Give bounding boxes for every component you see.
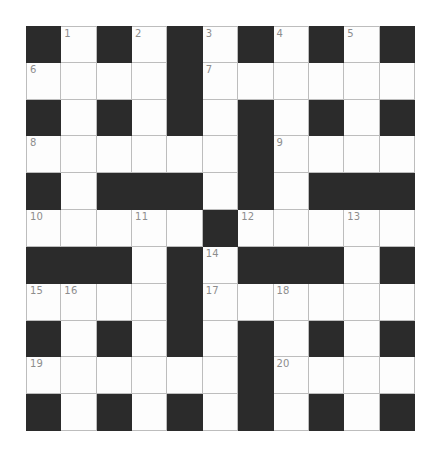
grid-cell-white[interactable] — [203, 357, 238, 394]
grid-cell-white[interactable] — [274, 394, 309, 431]
grid-cell-white[interactable] — [132, 357, 167, 394]
grid-cell-white[interactable] — [132, 394, 167, 431]
grid-cell-black — [97, 26, 132, 63]
grid-cell-white[interactable] — [203, 100, 238, 137]
grid-cell-white[interactable] — [344, 247, 379, 284]
grid-cell-black — [238, 100, 273, 137]
grid-cell-white[interactable] — [309, 357, 344, 394]
grid-cell-white[interactable] — [203, 321, 238, 358]
grid-cell-black — [274, 247, 309, 284]
grid-cell-white[interactable]: 2 — [132, 26, 167, 63]
grid-cell-white[interactable] — [344, 63, 379, 100]
grid-cell-white[interactable] — [61, 321, 96, 358]
grid-cell-white[interactable] — [97, 357, 132, 394]
grid-cell-white[interactable] — [167, 357, 202, 394]
cell-number: 3 — [206, 28, 213, 40]
grid-cell-white[interactable]: 4 — [274, 26, 309, 63]
grid-cell-white[interactable] — [132, 284, 167, 321]
grid-cell-white[interactable] — [132, 136, 167, 173]
grid-cell-white[interactable] — [97, 136, 132, 173]
grid-cell-white[interactable] — [380, 136, 415, 173]
grid-cell-white[interactable] — [309, 63, 344, 100]
grid-cell-black — [167, 63, 202, 100]
grid-cell-white[interactable] — [61, 100, 96, 137]
grid-cell-white[interactable]: 20 — [274, 357, 309, 394]
grid-cell-black — [344, 173, 379, 210]
grid-cell-white[interactable] — [203, 394, 238, 431]
grid-cell-white[interactable] — [167, 210, 202, 247]
grid-cell-white[interactable]: 13 — [344, 210, 379, 247]
grid-cell-white[interactable] — [203, 173, 238, 210]
grid-cell-white[interactable]: 15 — [26, 284, 61, 321]
grid-cell-black — [97, 394, 132, 431]
grid-cell-white[interactable] — [309, 136, 344, 173]
grid-cell-white[interactable]: 12 — [238, 210, 273, 247]
cell-number: 2 — [135, 28, 142, 40]
grid-cell-black — [380, 26, 415, 63]
grid-cell-black — [309, 173, 344, 210]
grid-cell-black — [97, 100, 132, 137]
grid-cell-black — [238, 247, 273, 284]
grid-cell-white[interactable] — [97, 210, 132, 247]
grid-cell-white[interactable] — [132, 100, 167, 137]
grid-cell-white[interactable] — [274, 321, 309, 358]
grid-cell-white[interactable] — [61, 173, 96, 210]
grid-cell-white[interactable]: 18 — [274, 284, 309, 321]
grid-cell-white[interactable] — [380, 284, 415, 321]
grid-cell-white[interactable]: 8 — [26, 136, 61, 173]
grid-cell-white[interactable] — [274, 100, 309, 137]
grid-cell-white[interactable] — [274, 63, 309, 100]
grid-cell-black — [26, 173, 61, 210]
grid-cell-white[interactable] — [344, 100, 379, 137]
grid-cell-white[interactable]: 6 — [26, 63, 61, 100]
grid-cell-white[interactable]: 16 — [61, 284, 96, 321]
grid-cell-white[interactable] — [344, 394, 379, 431]
grid-cell-white[interactable] — [203, 136, 238, 173]
grid-cell-white[interactable] — [61, 136, 96, 173]
cell-number: 9 — [277, 137, 284, 149]
grid-cell-white[interactable] — [309, 210, 344, 247]
grid-cell-white[interactable]: 7 — [203, 63, 238, 100]
grid-cell-black — [309, 100, 344, 137]
grid-cell-white[interactable]: 3 — [203, 26, 238, 63]
grid-cell-black — [309, 26, 344, 63]
grid-cell-black — [238, 357, 273, 394]
grid-cell-white[interactable]: 1 — [61, 26, 96, 63]
grid-cell-white[interactable] — [61, 63, 96, 100]
grid-cell-white[interactable]: 10 — [26, 210, 61, 247]
grid-cell-white[interactable]: 9 — [274, 136, 309, 173]
grid-cell-white[interactable] — [274, 173, 309, 210]
grid-cell-white[interactable] — [380, 357, 415, 394]
grid-cell-white[interactable] — [97, 284, 132, 321]
grid-cell-white[interactable]: 19 — [26, 357, 61, 394]
grid-cell-white[interactable] — [167, 136, 202, 173]
grid-cell-white[interactable] — [309, 284, 344, 321]
grid-cell-black — [380, 173, 415, 210]
grid-cell-white[interactable] — [132, 63, 167, 100]
cell-number: 5 — [347, 28, 354, 40]
grid-cell-white[interactable] — [61, 394, 96, 431]
grid-cell-white[interactable] — [238, 63, 273, 100]
cell-number: 13 — [347, 211, 360, 223]
grid-cell-black — [26, 321, 61, 358]
grid-cell-white[interactable]: 14 — [203, 247, 238, 284]
grid-cell-white[interactable] — [344, 357, 379, 394]
grid-cell-white[interactable] — [132, 247, 167, 284]
grid-cell-white[interactable] — [344, 321, 379, 358]
grid-cell-black — [238, 394, 273, 431]
grid-cell-white[interactable] — [238, 284, 273, 321]
grid-cell-white[interactable]: 11 — [132, 210, 167, 247]
grid-cell-white[interactable] — [344, 284, 379, 321]
grid-cell-white[interactable]: 17 — [203, 284, 238, 321]
grid-cell-white[interactable] — [380, 63, 415, 100]
grid-cell-white[interactable] — [97, 63, 132, 100]
grid-cell-white[interactable] — [61, 357, 96, 394]
grid-cell-white[interactable] — [344, 136, 379, 173]
grid-cell-white[interactable] — [61, 210, 96, 247]
grid-cell-white[interactable] — [132, 321, 167, 358]
cell-number: 19 — [30, 358, 43, 370]
grid-cell-white[interactable] — [380, 210, 415, 247]
grid-cell-white[interactable]: 5 — [344, 26, 379, 63]
grid-cell-black — [309, 321, 344, 358]
grid-cell-white[interactable] — [274, 210, 309, 247]
